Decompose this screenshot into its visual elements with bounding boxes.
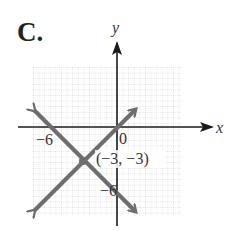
x-axis-label: x (215, 119, 223, 136)
origin-label: 0 (119, 130, 127, 147)
y-tick-neg6: −6 (100, 182, 117, 199)
y-axis-label: y (110, 19, 120, 37)
coordinate-graph: y x 0 −6 −6 (−3, −3) (0, 0, 244, 231)
intersection-point (79, 157, 87, 165)
x-tick-neg6: −6 (36, 131, 53, 148)
intersection-label: (−3, −3) (96, 150, 149, 168)
